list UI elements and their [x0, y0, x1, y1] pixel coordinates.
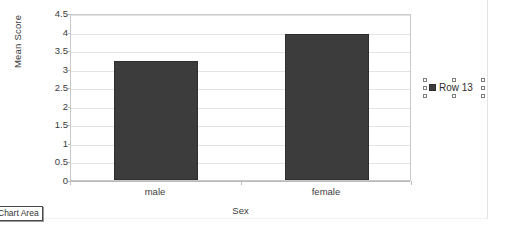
plot-area[interactable]	[70, 14, 411, 181]
selection-handle[interactable]	[481, 94, 485, 98]
x-axis-tick-label-female: female	[276, 186, 376, 197]
y-axis[interactable]: 4.543.532.521.510.50	[30, 14, 68, 181]
y-axis-tick-label: 3	[34, 65, 68, 75]
x-axis-tick-mark	[411, 181, 412, 185]
x-axis-title[interactable]: Sex	[70, 205, 411, 216]
selection-handle[interactable]	[452, 94, 456, 98]
selection-handle[interactable]	[423, 94, 427, 98]
selection-handle[interactable]	[452, 78, 456, 82]
legend-entry[interactable]: Row 13	[429, 82, 473, 93]
y-axis-tick-label: 4	[34, 28, 68, 38]
y-axis-tick-label: 2	[34, 102, 68, 112]
y-axis-tick-label: 1	[34, 139, 68, 149]
y-axis-tick-label: 0.5	[34, 157, 68, 167]
y-axis-tick-label: 3.5	[34, 46, 68, 56]
x-axis-tick-label-male: male	[105, 186, 205, 197]
selection-handle[interactable]	[481, 86, 485, 90]
selection-handle[interactable]	[423, 78, 427, 82]
y-axis-tick-label: 4.5	[34, 9, 68, 19]
y-axis-tick-label: 1.5	[34, 120, 68, 130]
x-axis-tick-mark	[70, 181, 71, 185]
x-axis-tick-mark	[241, 181, 242, 185]
legend-color-swatch-icon	[429, 84, 436, 91]
gridline	[71, 15, 410, 16]
chart-object[interactable]: Mean Score 4.543.532.521.510.50 Sex Row …	[0, 0, 516, 235]
y-axis-title[interactable]: Mean Score	[12, 15, 23, 68]
bar-female[interactable]	[285, 34, 369, 180]
y-axis-tick-label: 0	[34, 176, 68, 186]
selection-handle[interactable]	[423, 86, 427, 90]
legend-entry-label: Row 13	[439, 82, 473, 93]
y-axis-tick-label: 2.5	[34, 83, 68, 93]
selection-handle[interactable]	[481, 78, 485, 82]
chart-legend[interactable]: Row 13	[425, 80, 483, 96]
chart-area-tooltip: Chart Area	[0, 206, 43, 221]
bar-male[interactable]	[114, 61, 198, 180]
